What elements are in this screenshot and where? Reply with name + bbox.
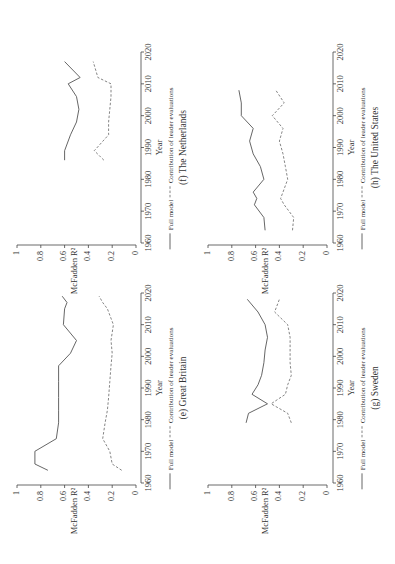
year-tick-label: 1960 xyxy=(143,475,153,492)
year-axis-label: Year xyxy=(346,380,356,396)
year-tick-label: 1990 xyxy=(143,380,153,397)
year-tick-label: 2000 xyxy=(335,348,345,365)
r2-tick-label: 1 xyxy=(203,251,212,255)
r2-tick-label: 0.2 xyxy=(298,251,307,261)
year-tick-label: 1970 xyxy=(335,203,345,220)
full-model-line xyxy=(65,62,81,161)
year-tick-label: 2020 xyxy=(335,285,345,302)
chart-panels: 00.20.40.60.81McFadden R²196019701980199… xyxy=(0,0,395,564)
r2-tick-label: 1 xyxy=(12,251,21,255)
r2-tick-label: 0.6 xyxy=(59,251,68,261)
legend-contribution: Contribution of leader evaluations xyxy=(167,87,175,183)
r2-tick-label: 0.2 xyxy=(298,491,307,501)
r2-tick-label: 0.6 xyxy=(250,251,259,261)
legend-full-model: Full model xyxy=(359,440,367,471)
legend-contribution: Contribution of leader evaluations xyxy=(167,327,175,423)
legend-contribution: Contribution of leader evaluations xyxy=(359,327,367,423)
year-tick-label: 1980 xyxy=(143,171,153,188)
year-tick-label: 2010 xyxy=(143,75,153,92)
r2-tick-label: 0.4 xyxy=(274,491,283,501)
legend-full-model: Full model xyxy=(167,440,175,471)
year-tick-label: 2010 xyxy=(143,316,153,333)
r2-tick-label: 1 xyxy=(12,491,21,495)
r2-tick-label: 0.4 xyxy=(83,491,92,501)
panel-title: (g) Sweden xyxy=(370,366,381,410)
r2-tick-label: 0.8 xyxy=(36,491,45,501)
year-tick-label: 2020 xyxy=(143,285,153,302)
r2-tick-label: 0 xyxy=(322,251,331,255)
year-tick-label: 1970 xyxy=(143,203,153,220)
year-tick-label: 1970 xyxy=(143,443,153,460)
r2-tick-label: 1 xyxy=(203,491,212,495)
year-tick-label: 1960 xyxy=(143,235,153,252)
year-tick-label: 1960 xyxy=(335,475,345,492)
r2-tick-label: 0.6 xyxy=(250,491,259,501)
year-tick-label: 1970 xyxy=(335,443,345,460)
r2-tick-label: 0.4 xyxy=(274,251,283,261)
r2-tick-label: 0 xyxy=(131,251,140,255)
legend-contribution: Contribution of leader evaluations xyxy=(359,87,367,183)
year-axis-label: Year xyxy=(154,140,164,156)
year-axis-label: Year xyxy=(154,380,164,396)
full-model-line xyxy=(239,90,265,230)
year-tick-label: 1960 xyxy=(335,235,345,252)
year-tick-label: 2020 xyxy=(335,44,345,61)
year-axis-label: Year xyxy=(346,140,356,156)
year-tick-label: 2020 xyxy=(143,44,153,61)
r2-tick-label: 0.6 xyxy=(59,491,68,501)
panel-title: (h) The United States xyxy=(370,107,381,189)
year-tick-label: 1990 xyxy=(335,380,345,397)
year-tick-label: 2010 xyxy=(335,75,345,92)
r2-axis-label: McFadden R² xyxy=(69,487,79,534)
contribution-line xyxy=(272,90,293,230)
panel-title: (e) Great Britain xyxy=(178,356,189,419)
legend-full-model: Full model xyxy=(359,200,367,231)
year-tick-label: 1980 xyxy=(143,411,153,428)
contribution-line xyxy=(93,62,111,161)
full-model-line xyxy=(246,299,267,423)
full-model-line xyxy=(35,296,77,470)
figure: 00.20.40.60.81McFadden R²196019701980199… xyxy=(0,0,395,564)
contribution-line xyxy=(99,296,122,470)
year-tick-label: 2010 xyxy=(335,316,345,333)
r2-tick-label: 0.8 xyxy=(227,251,236,261)
r2-axis-label: McFadden R² xyxy=(69,247,79,294)
r2-tick-label: 0 xyxy=(322,491,331,495)
r2-axis-label: McFadden R² xyxy=(260,487,270,534)
r2-tick-label: 0.4 xyxy=(83,251,92,261)
year-tick-label: 1990 xyxy=(335,139,345,156)
panel-title: (f) The Netherlands xyxy=(178,110,189,185)
year-tick-label: 2000 xyxy=(335,107,345,124)
r2-axis-label: McFadden R² xyxy=(260,247,270,294)
year-tick-label: 2000 xyxy=(143,107,153,124)
year-tick-label: 2000 xyxy=(143,348,153,365)
r2-tick-label: 0.8 xyxy=(227,491,236,501)
r2-tick-label: 0.2 xyxy=(107,251,116,261)
year-tick-label: 1990 xyxy=(143,139,153,156)
year-tick-label: 1980 xyxy=(335,411,345,428)
contribution-line xyxy=(271,299,291,423)
year-tick-label: 1980 xyxy=(335,171,345,188)
r2-tick-label: 0.8 xyxy=(36,251,45,261)
r2-tick-label: 0 xyxy=(131,491,140,495)
r2-tick-label: 0.2 xyxy=(107,491,116,501)
legend-full-model: Full model xyxy=(167,200,175,231)
